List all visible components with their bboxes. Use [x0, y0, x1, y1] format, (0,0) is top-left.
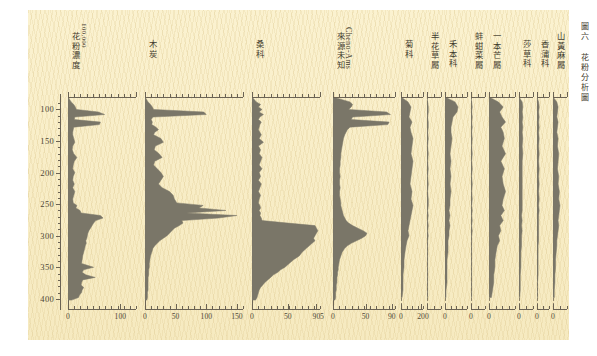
- header-tick: [427, 92, 428, 97]
- depth-minor-tick: [58, 229, 61, 230]
- depth-minor-tick: [58, 198, 61, 199]
- x-minor-tick: [418, 306, 419, 309]
- x-minor-tick: [467, 306, 468, 309]
- x-minor-tick: [320, 306, 321, 309]
- x-minor-tick: [352, 306, 353, 309]
- header-tick: [277, 94, 278, 97]
- depth-minor-tick: [58, 154, 61, 155]
- x-minor-tick: [157, 306, 158, 309]
- header-tick: [496, 94, 497, 97]
- column-title-miscanthus: 一本芒屬: [490, 32, 500, 84]
- x-axis-chenopod: [471, 309, 485, 310]
- x-tick-label: 50: [354, 312, 378, 321]
- depth-minor-tick: [58, 185, 61, 186]
- x-minor-tick: [412, 306, 413, 309]
- depth-minor-tick: [58, 122, 61, 123]
- x-minor-tick: [289, 306, 290, 309]
- x-minor-tick: [136, 306, 137, 309]
- header-tick: [560, 94, 561, 97]
- header-tick: [314, 94, 315, 97]
- pollen-curve-poaceae: [445, 97, 471, 305]
- depth-minor-tick: [58, 179, 61, 180]
- header-tick: [352, 94, 353, 97]
- x-minor-tick: [560, 306, 561, 309]
- x-minor-tick: [277, 306, 278, 309]
- header-tick: [68, 92, 69, 97]
- header-tick: [151, 94, 152, 97]
- column-title-artemisia: 半花草屬: [428, 32, 438, 84]
- header-tick: [364, 94, 365, 97]
- depth-tick-label: 200: [28, 168, 54, 178]
- x-minor-tick: [345, 306, 346, 309]
- depth-minor-tick: [58, 166, 61, 167]
- depth-minor-tick: [58, 135, 61, 136]
- x-axis-trema: [553, 309, 567, 310]
- header-tick: [237, 94, 238, 97]
- x-major-tick: [68, 304, 69, 309]
- column-title-typhaceae: 香蒲科: [538, 40, 548, 92]
- x-minor-tick: [99, 306, 100, 309]
- x-minor-tick: [80, 306, 81, 309]
- depth-axis-line: [60, 94, 61, 310]
- x-minor-tick: [200, 306, 201, 309]
- header-tick: [509, 94, 510, 97]
- pollen-curve-artemisia: [427, 97, 445, 305]
- header-tick: [231, 94, 232, 97]
- x-major-tick: [176, 304, 177, 309]
- x-minor-tick: [87, 306, 88, 309]
- header-tick: [99, 94, 100, 97]
- x-major-tick: [316, 304, 317, 309]
- header-tick-strip: [489, 97, 515, 98]
- depth-tick: [56, 267, 60, 268]
- column-title-asteraceae: 菊科: [402, 40, 412, 92]
- x-axis-miscanthus: [489, 309, 515, 310]
- header-tick: [105, 94, 106, 97]
- header-tick: [407, 94, 408, 97]
- header-tick: [182, 94, 183, 97]
- header-tick: [467, 92, 468, 97]
- header-tick-strip: [252, 97, 320, 98]
- header-tick: [145, 92, 146, 97]
- x-minor-tick: [423, 306, 424, 309]
- header-tick: [200, 94, 201, 97]
- depth-minor-tick: [58, 103, 61, 104]
- header-tick: [130, 94, 131, 97]
- x-minor-tick: [509, 306, 510, 309]
- pollen-curve-moraceae: [252, 97, 324, 305]
- header-tick: [243, 92, 244, 97]
- x-minor-tick: [451, 306, 452, 309]
- x-major-tick: [401, 304, 402, 309]
- x-minor-tick: [258, 306, 259, 309]
- x-minor-tick: [395, 306, 396, 309]
- depth-minor-tick: [58, 116, 61, 117]
- x-minor-tick: [314, 306, 315, 309]
- header-tick: [188, 94, 189, 97]
- depth-tick-label: 100: [28, 104, 54, 114]
- x-minor-tick: [515, 306, 516, 309]
- x-major-tick: [145, 304, 146, 309]
- depth-minor-tick: [58, 217, 61, 218]
- x-minor-tick: [295, 306, 296, 309]
- header-tick-strip: [471, 97, 485, 98]
- x-major-tick: [206, 304, 207, 309]
- x-minor-tick: [163, 306, 164, 309]
- header-tick-strip: [401, 97, 423, 98]
- header-tick: [423, 92, 424, 97]
- header-tick: [118, 94, 119, 97]
- header-tick: [87, 94, 88, 97]
- x-minor-tick: [376, 306, 377, 309]
- depth-minor-tick: [58, 210, 61, 211]
- header-tick: [320, 92, 321, 97]
- header-tick-strip: [519, 97, 533, 98]
- x-major-tick: [366, 304, 367, 309]
- x-axis-typhaceae: [537, 309, 549, 310]
- x-tick-label: 100: [194, 312, 218, 321]
- depth-tick: [56, 204, 60, 205]
- pollen-diagram-figure: 100150200250300350400花粉濃度100,0000100木炭05…: [0, 0, 597, 356]
- header-tick: [333, 92, 334, 97]
- column-title-trema: 山黃麻屬: [554, 32, 564, 84]
- header-tick: [471, 92, 472, 97]
- x-minor-tick: [111, 306, 112, 309]
- header-tick: [441, 92, 442, 97]
- x-minor-tick: [456, 306, 457, 309]
